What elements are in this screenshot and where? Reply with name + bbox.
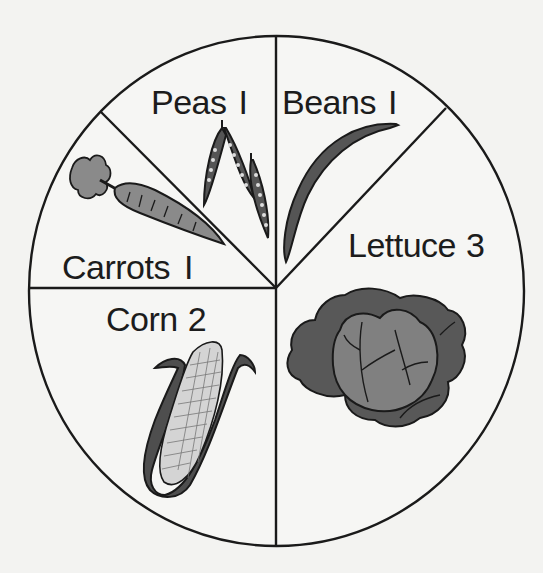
pie-chart: PeasI BeansI Lettuce3 (0, 0, 543, 573)
slice-label-corn: Corn2 (106, 300, 206, 338)
